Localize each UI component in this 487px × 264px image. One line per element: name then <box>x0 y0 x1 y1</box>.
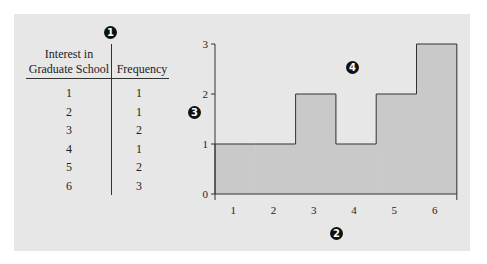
x-tick-label: 1 <box>230 204 236 216</box>
y-tick-label: 1 <box>203 138 209 150</box>
histogram-chart: 0123123456 <box>0 0 487 264</box>
y-tick-label: 0 <box>203 188 209 200</box>
histogram-bar <box>336 144 377 194</box>
annotation-badge-3: 3 <box>188 106 201 119</box>
annotation-badge-4: 4 <box>346 61 359 74</box>
histogram-bar <box>376 94 417 194</box>
x-tick-label: 4 <box>351 204 357 216</box>
x-tick-label: 2 <box>271 204 277 216</box>
x-tick-label: 6 <box>432 204 438 216</box>
annotation-badge-2: 2 <box>330 227 343 240</box>
histogram-bars <box>215 44 457 194</box>
histogram-bar <box>417 44 458 194</box>
histogram-bar <box>296 94 337 194</box>
x-tick-label: 5 <box>392 204 398 216</box>
y-tick-label: 3 <box>203 38 209 50</box>
y-tick-label: 2 <box>203 88 209 100</box>
histogram-bar <box>255 144 296 194</box>
x-tick-label: 3 <box>311 204 317 216</box>
histogram-bar <box>215 144 256 194</box>
